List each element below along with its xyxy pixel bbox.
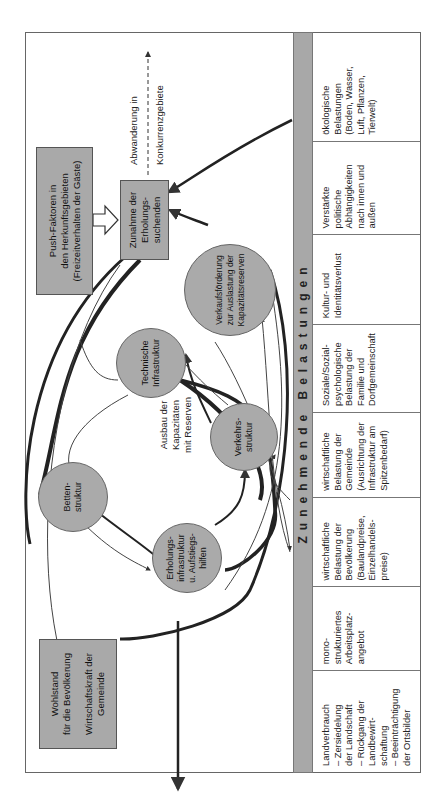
push-factors-line-3: (Freizeitverhalten der Gäste) xyxy=(71,161,83,282)
burden-cell: Soziale/Sozial- psychologische Belastung… xyxy=(313,325,420,413)
burden-cell: ökologische Belastungen (Boden, Wasser, … xyxy=(313,33,420,142)
burden-cell: Verstärkte politische Abhängigkeiten nac… xyxy=(313,142,420,236)
migration-label-2: Konkurrenzgebiete xyxy=(154,55,166,165)
prosperity-line-1: Wohlstand xyxy=(49,672,61,717)
prosperity-box: Wohlstand für die Bevölkerung Wirtschaft… xyxy=(39,639,117,749)
push-factors-line-2: den Herkunftsgebieten xyxy=(59,173,71,269)
push-arrow xyxy=(93,206,118,234)
rotated-diagram: Push-Faktoren in den Herkunftsgebieten (… xyxy=(0,0,441,800)
migration-label-1: Abwanderung in xyxy=(128,55,140,165)
prosperity-line-4: Gemeinde xyxy=(95,672,107,716)
prosperity-line-2: für die Bevölkerung xyxy=(61,653,73,735)
burden-cell: mono- strukturiertes Arbeitsplatz- angeb… xyxy=(313,588,420,672)
push-factors-line-1: Push-Faktoren in xyxy=(47,185,59,257)
burden-cell: Kultur- und Identitätsverlust xyxy=(313,235,420,325)
increase-box: Zunahme der Erholungs- suchenden xyxy=(120,180,169,260)
recreation-infrastructure-circle: Erholungs- infrastruktur u. Aufstiegs- h… xyxy=(152,523,222,593)
burden-cell: wirtschaftliche Belastung der Gemeinde (… xyxy=(313,413,420,498)
burden-cell: Landverbrauch – Zersiedelung der Landsch… xyxy=(313,671,420,772)
push-factors-box: Push-Faktoren in den Herkunftsgebieten (… xyxy=(36,147,93,295)
prosperity-line-3: Wirtschaftskraft der xyxy=(83,653,95,735)
traffic-structure-circle: Verkehrs- struktur xyxy=(210,403,278,471)
burdens-table: Landverbrauch – Zersiedelung der Landsch… xyxy=(313,32,421,773)
sales-promotion-circle: Verkaufsförderung zur Auslastung der Kap… xyxy=(184,244,276,336)
increase-line-2: Erholungs- xyxy=(139,197,151,243)
increase-line-3: suchenden xyxy=(151,197,163,243)
increase-line-1: Zunahme der xyxy=(127,192,139,249)
burden-cell: wirtschaftliche Belastung der Bevölkerun… xyxy=(313,498,420,588)
expansion-label: Ausbau der Kapazitäten mit Reserven xyxy=(158,385,194,465)
increasing-burdens-banner: Zunehmende Belastungen xyxy=(293,32,313,773)
beds-circle: Betten- struktur xyxy=(38,462,108,532)
